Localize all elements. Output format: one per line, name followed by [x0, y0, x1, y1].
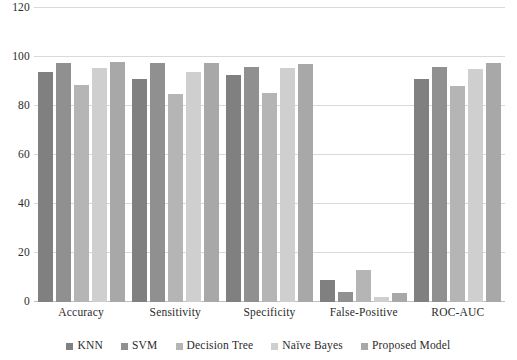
- bar-slot: [38, 8, 53, 302]
- bar-slot: [92, 8, 107, 302]
- legend-label: KNN: [77, 340, 103, 352]
- x-axis-category-label: ROC-AUC: [411, 306, 505, 326]
- bar[interactable]: [338, 292, 353, 302]
- x-axis-category-label: False-Positive: [317, 306, 411, 326]
- y-axis-tick-label: 20: [0, 247, 30, 259]
- bar[interactable]: [320, 280, 335, 302]
- legend-swatch-icon: [66, 343, 73, 350]
- bar-slot: [450, 8, 465, 302]
- x-axis-category-label: Sensitivity: [128, 306, 222, 326]
- y-axis-tick-label: 60: [0, 149, 30, 161]
- bar-slot: [56, 8, 71, 302]
- legend-label: Decision Tree: [187, 340, 254, 352]
- legend-item[interactable]: Naïve Bayes: [271, 340, 343, 352]
- legend-item[interactable]: Proposed Model: [361, 340, 451, 352]
- y-axis-tick-label: 0: [0, 296, 30, 308]
- legend-item[interactable]: Decision Tree: [176, 340, 254, 352]
- bar-slot: [468, 8, 483, 302]
- bar-slot: [280, 8, 295, 302]
- bar[interactable]: [262, 93, 277, 302]
- bar-slot: [320, 8, 335, 302]
- legend-label: SVM: [132, 340, 158, 352]
- bar-slot: [374, 8, 389, 302]
- bar[interactable]: [280, 68, 295, 302]
- bar-slot: [204, 8, 219, 302]
- bar-group: [34, 8, 128, 302]
- bar[interactable]: [150, 63, 165, 302]
- legend-item[interactable]: SVM: [121, 340, 158, 352]
- bar-slot: [486, 8, 501, 302]
- legend-swatch-icon: [271, 343, 278, 350]
- bar[interactable]: [74, 85, 89, 302]
- y-axis-tick-label: 120: [0, 2, 30, 14]
- y-axis: 020406080100120: [0, 0, 30, 310]
- bar[interactable]: [432, 67, 447, 302]
- bar-slot: [168, 8, 183, 302]
- y-axis-tick-label: 100: [0, 51, 30, 63]
- bar-groups: [34, 8, 505, 302]
- bar[interactable]: [56, 63, 71, 302]
- bar-group: [317, 8, 411, 302]
- bar[interactable]: [392, 293, 407, 302]
- bar-slot: [150, 8, 165, 302]
- bar-slot: [392, 8, 407, 302]
- legend-label: Proposed Model: [372, 340, 451, 352]
- bar[interactable]: [450, 86, 465, 302]
- legend-swatch-icon: [361, 343, 368, 350]
- legend-swatch-icon: [121, 343, 128, 350]
- bar-slot: [226, 8, 241, 302]
- x-axis: AccuracySensitivitySpecificityFalse-Posi…: [34, 306, 505, 326]
- y-axis-tick-label: 40: [0, 198, 30, 210]
- bar[interactable]: [356, 270, 371, 302]
- legend-item[interactable]: KNN: [66, 340, 103, 352]
- bar-slot: [74, 8, 89, 302]
- bar-chart: 020406080100120 AccuracySensitivitySpeci…: [0, 0, 517, 360]
- legend-label: Naïve Bayes: [282, 340, 343, 352]
- bar[interactable]: [168, 94, 183, 302]
- bar[interactable]: [486, 63, 501, 302]
- x-axis-category-label: Accuracy: [34, 306, 128, 326]
- bar[interactable]: [374, 297, 389, 302]
- bar-slot: [186, 8, 201, 302]
- bar-group: [128, 8, 222, 302]
- y-axis-tick-label: 80: [0, 100, 30, 112]
- bar[interactable]: [244, 67, 259, 302]
- bar-slot: [414, 8, 429, 302]
- bar[interactable]: [414, 79, 429, 302]
- bar-slot: [132, 8, 147, 302]
- legend: KNNSVMDecision TreeNaïve BayesProposed M…: [0, 338, 517, 354]
- bar[interactable]: [92, 68, 107, 302]
- bar[interactable]: [468, 69, 483, 302]
- bar-slot: [110, 8, 125, 302]
- bar[interactable]: [298, 64, 313, 302]
- bar-slot: [356, 8, 371, 302]
- bar[interactable]: [226, 75, 241, 302]
- bar[interactable]: [204, 63, 219, 302]
- bar[interactable]: [38, 72, 53, 302]
- bar-slot: [338, 8, 353, 302]
- bar[interactable]: [132, 79, 147, 302]
- bar-group: [411, 8, 505, 302]
- bar-slot: [432, 8, 447, 302]
- bar-slot: [262, 8, 277, 302]
- x-axis-category-label: Specificity: [222, 306, 316, 326]
- bar[interactable]: [186, 72, 201, 302]
- bar-slot: [244, 8, 259, 302]
- legend-swatch-icon: [176, 343, 183, 350]
- bar[interactable]: [110, 62, 125, 302]
- bar-slot: [298, 8, 313, 302]
- bar-group: [222, 8, 316, 302]
